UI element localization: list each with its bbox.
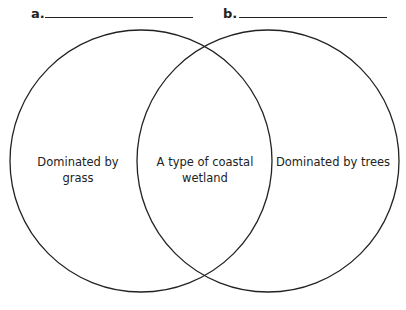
overlap-region-text: A type of coastal wetland [146,154,264,186]
overlap-line-1: A type of coastal [146,154,264,170]
overlap-line-2: wetland [146,170,264,186]
left-region-text: Dominated by grass [22,154,134,186]
right-region-text: Dominated by trees [274,154,392,170]
